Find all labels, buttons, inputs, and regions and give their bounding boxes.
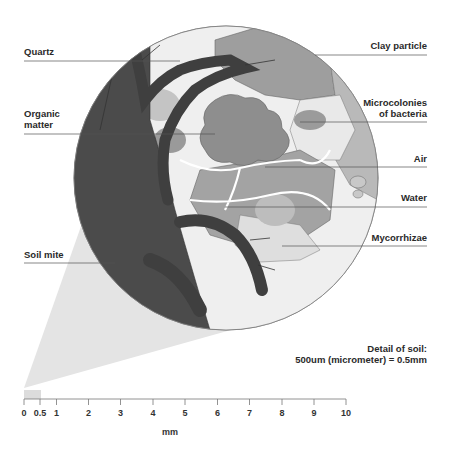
- scale-tick-5: 5: [182, 408, 187, 418]
- label-microcolonies: Microcolonies of bacteria: [363, 97, 427, 119]
- soil-diagram: Quartz Organic matter Soil mite Clay par…: [0, 0, 451, 457]
- label-mycorrhizae: Mycorrhizae: [372, 232, 427, 243]
- label-soil-mite: Soil mite: [24, 249, 64, 260]
- label-organic-matter: Organic matter: [24, 108, 60, 130]
- label-air: Air: [414, 153, 427, 164]
- label-microcolonies-line2: of bacteria: [363, 108, 427, 119]
- scale-tick-2: 2: [86, 408, 91, 418]
- caption-line1: Detail of soil:: [295, 343, 427, 354]
- scale-unit: mm: [162, 427, 178, 437]
- figure-caption: Detail of soil: 500um (micrometer) = 0.5…: [295, 343, 427, 365]
- label-organic-matter-line2: matter: [24, 119, 60, 130]
- scale-tick-7: 7: [247, 408, 252, 418]
- label-clay-particle: Clay particle: [371, 40, 428, 51]
- label-organic-matter-line1: Organic: [24, 108, 60, 119]
- label-water: Water: [401, 192, 427, 203]
- scale-tick-6: 6: [215, 408, 220, 418]
- scale-tick-0: 0: [21, 408, 26, 418]
- label-quartz: Quartz: [24, 46, 54, 57]
- scale-tick-9: 9: [311, 408, 316, 418]
- scale-bar: [24, 399, 346, 405]
- scale-tick-8: 8: [279, 408, 284, 418]
- scale-tick-0-5: 0.5: [34, 408, 47, 418]
- soil-illustration: [0, 0, 451, 457]
- scale-highlight-box: [24, 390, 41, 399]
- caption-line2: 500um (micrometer) = 0.5mm: [295, 354, 427, 365]
- scale-tick-3: 3: [118, 408, 123, 418]
- scale-tick-4: 4: [150, 408, 155, 418]
- scale-tick-1: 1: [54, 408, 59, 418]
- scale-tick-10: 10: [341, 408, 351, 418]
- label-microcolonies-line1: Microcolonies: [363, 97, 427, 108]
- water-droplet: [350, 176, 366, 188]
